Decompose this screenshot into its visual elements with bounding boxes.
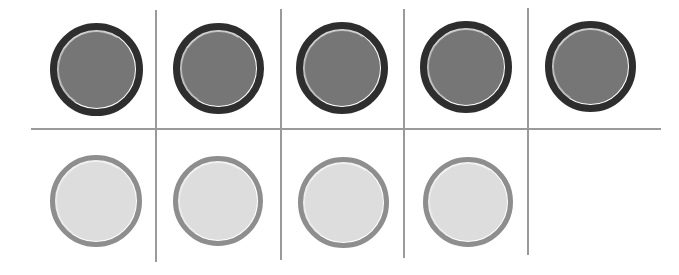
row-divider-1: [31, 128, 661, 130]
column-divider-4: [527, 8, 529, 255]
column-divider-3: [403, 9, 405, 258]
grid-lines-layer: [0, 0, 679, 275]
column-divider-2: [280, 9, 282, 260]
counting-grid-canvas: [0, 0, 679, 275]
column-divider-1: [155, 10, 157, 262]
